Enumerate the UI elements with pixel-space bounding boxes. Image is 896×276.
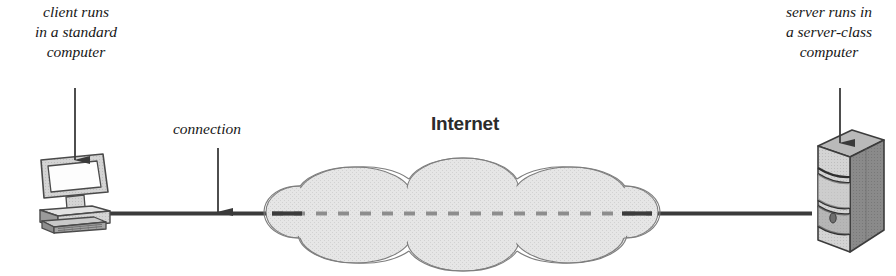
connection-annotation: connection: [140, 119, 274, 139]
client-annotation-line-3: computer: [0, 42, 152, 62]
server-annotation: server runs in a server-class computer: [762, 2, 896, 62]
network-diagram-figure: client runs in a standard computer serve…: [0, 0, 896, 276]
connection-annotation-line-1: connection: [140, 119, 274, 139]
server-annotation-line-3: computer: [762, 42, 896, 62]
client-annotation-line-2: in a standard: [0, 22, 152, 42]
server-tower-icon: [818, 130, 884, 252]
server-annotation-line-1: server runs in: [762, 2, 896, 22]
desktop-computer-icon: [40, 154, 110, 233]
client-annotation: client runs in a standard computer: [0, 2, 152, 62]
client-annotation-line-1: client runs: [0, 2, 152, 22]
internet-label: Internet: [390, 113, 540, 135]
server-annotation-line-2: a server-class: [762, 22, 896, 42]
